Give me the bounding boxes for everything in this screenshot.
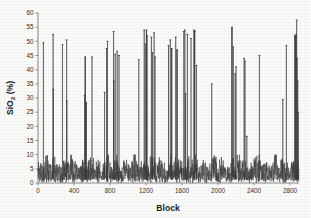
spike-apex-marker <box>66 39 68 40</box>
spike-apex-marker <box>151 37 153 38</box>
spike-apex-marker <box>184 30 186 31</box>
spike-apex-marker <box>62 44 64 45</box>
y-tick-label: 25 <box>26 108 34 115</box>
spike-apex-marker <box>176 49 178 50</box>
y-tick-label: 20 <box>26 123 34 130</box>
spike-apex-marker <box>168 45 170 46</box>
y-tick-label: 30 <box>26 94 34 101</box>
spike-apex-marker <box>246 136 248 137</box>
spike-apex-marker <box>232 47 234 48</box>
y-tick-label: 0 <box>30 179 34 186</box>
spike-apex-marker <box>146 30 148 31</box>
spike-apex-marker <box>104 92 106 93</box>
spike-apex-marker <box>286 45 288 46</box>
spike-apex-marker <box>295 37 297 38</box>
spike-apex-marker <box>169 39 171 40</box>
chart-figure: 051015202530354045505560 040080012001600… <box>0 0 311 218</box>
spike-apex-marker <box>295 34 297 35</box>
spike-apex-marker <box>146 35 148 36</box>
x-tick-label: 2800 <box>283 187 298 194</box>
spike-apex-marker <box>187 34 189 35</box>
x-tick-label: 0 <box>36 187 40 194</box>
y-tick-label: 60 <box>26 9 34 16</box>
spike-apex-marker <box>196 65 198 66</box>
spike-apex-marker <box>138 59 140 60</box>
x-axis-title: Block <box>156 203 180 213</box>
spike-apex-marker <box>52 34 54 35</box>
spike-apex-marker <box>294 35 296 36</box>
y-tick-label: 35 <box>26 80 34 87</box>
spike-apex-marker <box>244 61 246 62</box>
spike-apex-marker <box>154 56 156 57</box>
spike-apex-marker <box>185 93 187 94</box>
spike-apex-marker <box>190 38 192 39</box>
spike-apex-marker <box>183 31 185 32</box>
spike-apex-marker <box>43 42 45 43</box>
y-tick-label: 40 <box>26 66 34 73</box>
y-tick-label: 10 <box>26 151 34 158</box>
spike-apex-marker <box>66 100 68 101</box>
spike-apex-marker <box>85 102 87 103</box>
spike-apex-marker <box>211 83 213 84</box>
spike-apex-marker <box>234 73 236 74</box>
spike-apex-marker <box>84 95 86 96</box>
spike-apex-marker <box>113 31 115 32</box>
spike-apex-marker <box>116 51 118 52</box>
spike-apex-marker <box>175 37 177 38</box>
spike-apex-marker <box>144 44 146 45</box>
spike-apex-marker <box>231 27 233 28</box>
spike-apex-marker <box>297 81 299 82</box>
spike-apex-marker <box>297 112 299 113</box>
spike-apex-marker <box>235 66 237 67</box>
y-tick-label: 50 <box>26 38 34 45</box>
spike-apex-marker <box>194 31 196 32</box>
y-axis-title-post: (%) <box>5 81 15 97</box>
spike-apex-marker <box>282 99 284 100</box>
x-tick-label: 400 <box>69 187 80 194</box>
spike-apex-marker <box>118 55 120 56</box>
y-tick-label: 55 <box>26 23 34 30</box>
chart-background <box>0 0 311 218</box>
y-tick-label: 45 <box>26 52 34 59</box>
y-tick-label: 5 <box>30 165 34 172</box>
x-tick-label: 1200 <box>139 187 154 194</box>
x-tick-label: 2000 <box>211 187 226 194</box>
spike-apex-marker <box>171 48 173 49</box>
spike-apex-marker <box>153 32 155 33</box>
spike-apex-marker <box>114 54 116 55</box>
spike-apex-marker <box>259 55 261 56</box>
spike-apex-marker <box>91 56 93 57</box>
spike-apex-marker <box>152 52 154 53</box>
y-tick-label: 15 <box>26 137 34 144</box>
x-tick-label: 2400 <box>247 187 262 194</box>
spike-apex-marker <box>296 20 298 21</box>
x-tick-label: 800 <box>105 187 116 194</box>
y-axis-title-pre: SiO <box>5 100 15 115</box>
sio2-block-line-chart: 051015202530354045505560 040080012001600… <box>0 0 311 218</box>
x-tick-label: 1600 <box>175 187 190 194</box>
spike-apex-marker <box>106 48 108 49</box>
spike-apex-marker <box>143 30 145 31</box>
spike-apex-marker <box>113 81 115 82</box>
spike-apex-marker <box>84 56 86 57</box>
spike-apex-marker <box>193 30 195 31</box>
spike-apex-marker <box>52 89 54 90</box>
spike-apex-marker <box>243 58 245 59</box>
spike-apex-marker <box>107 41 109 42</box>
spike-apex-marker <box>296 58 298 59</box>
